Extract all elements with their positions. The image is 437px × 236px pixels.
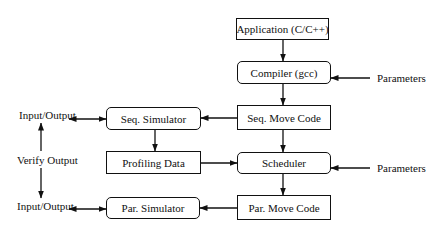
node-par-move-code-label: Par. Move Code <box>248 202 319 214</box>
node-seq-simulator: Seq. Simulator <box>106 107 201 130</box>
node-seq-move-code: Seq. Move Code <box>237 105 331 130</box>
node-profiling-data: Profiling Data <box>106 151 201 174</box>
node-par-move-code: Par. Move Code <box>237 195 331 220</box>
node-seq-simulator-label: Seq. Simulator <box>121 113 186 125</box>
node-par-simulator: Par. Simulator <box>106 197 200 219</box>
node-par-simulator-label: Par. Simulator <box>122 202 185 214</box>
label-verify-output: Verify Output <box>17 154 78 166</box>
label-io-top: Input/Output <box>19 109 76 121</box>
label-parameters-compiler: Parameters <box>377 72 426 84</box>
label-parameters-scheduler: Parameters <box>377 162 426 174</box>
node-profiling-data-label: Profiling Data <box>122 157 185 169</box>
node-compiler: Compiler (gcc) <box>237 61 331 84</box>
label-io-bottom: Input/Output <box>17 200 74 212</box>
node-seq-move-code-label: Seq. Move Code <box>247 112 321 124</box>
node-application: Application (C/C++) <box>236 18 329 40</box>
node-compiler-label: Compiler (gcc) <box>251 67 318 79</box>
node-scheduler-label: Scheduler <box>262 157 306 169</box>
node-application-label: Application (C/C++) <box>236 23 328 35</box>
node-scheduler: Scheduler <box>237 152 331 174</box>
